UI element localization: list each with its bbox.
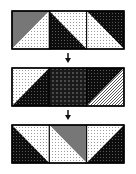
arrow-down-icon: [65, 53, 71, 63]
quilt-square: [49, 125, 86, 163]
row-2: [12, 68, 124, 106]
row-3: [12, 125, 124, 163]
arrow-down-icon: [65, 110, 71, 120]
quilt-square: [12, 68, 49, 106]
row-1: [12, 11, 124, 49]
quilt-square: [12, 11, 49, 49]
quilt-square: [12, 125, 49, 163]
quilt-square: [49, 11, 86, 49]
quilt-diagram: [0, 0, 136, 174]
triangle-dark-grid: [49, 68, 86, 106]
quilt-square: [87, 68, 124, 106]
quilt-square: [87, 125, 124, 163]
quilt-square: [49, 68, 86, 106]
quilt-square: [87, 11, 124, 49]
